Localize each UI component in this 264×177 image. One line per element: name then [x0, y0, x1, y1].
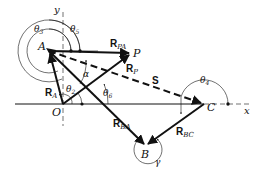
label-r-a: RA	[45, 87, 57, 100]
label-point-a: A	[37, 40, 46, 53]
vector-r-bc	[148, 104, 204, 144]
label-s: S	[152, 75, 159, 86]
label-gamma: γ	[155, 157, 161, 167]
label-point-b: B	[140, 148, 149, 161]
label-theta2: θ2	[66, 84, 75, 95]
label-theta4: θ4	[200, 75, 209, 86]
label-theta5: θ5	[70, 24, 79, 35]
label-theta6: θ6	[103, 88, 112, 99]
label-r-bc: RBC	[176, 126, 195, 139]
label-r-ba: RBA	[113, 118, 130, 131]
label-r-pa: RPA	[110, 38, 126, 51]
label-theta3: θ3	[34, 24, 43, 35]
label-point-p: P	[132, 47, 141, 60]
label-alpha: α	[83, 69, 89, 79]
vector-diagram: A O P B C x y RA RPA RP RBA RBC S θ3 θ5 …	[0, 0, 264, 177]
label-y-axis: y	[53, 4, 60, 15]
label-x-axis: x	[244, 105, 250, 116]
label-point-o: O	[52, 106, 61, 119]
vector-r-pa	[49, 51, 129, 53]
label-point-c: C	[207, 101, 216, 114]
label-r-p: RP	[126, 63, 138, 76]
theta2-arc	[78, 93, 82, 104]
